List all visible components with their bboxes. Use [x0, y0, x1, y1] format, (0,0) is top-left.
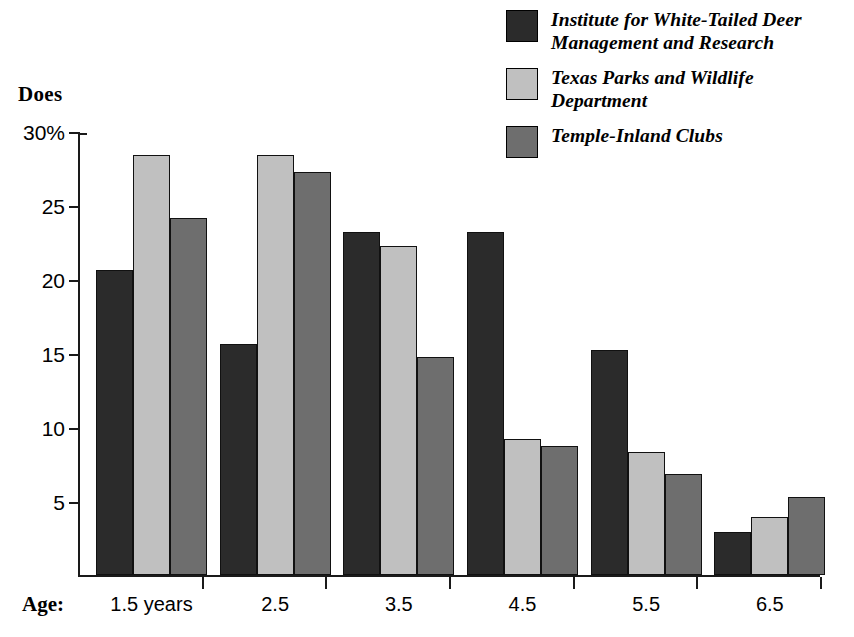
x-axis-category-label: 6.5: [756, 593, 784, 616]
y-axis-tick: [69, 206, 80, 208]
bar: [170, 218, 207, 575]
bar: [343, 232, 380, 575]
x-axis-tick: [325, 577, 327, 589]
bar: [714, 532, 751, 575]
y-axis-tick: [69, 354, 80, 356]
legend-swatch-tpwd: [506, 68, 538, 100]
bar: [96, 270, 133, 575]
legend-item-label: Institute for White-Tailed Deer Manageme…: [551, 8, 851, 54]
bar: [541, 446, 578, 575]
bar: [417, 357, 454, 575]
x-axis-tick: [202, 577, 204, 589]
y-axis-title: Does: [18, 82, 62, 107]
x-axis-labels: Age: 1.5 years2.53.54.55.56.5: [0, 592, 854, 626]
y-axis-tick-label: 20: [42, 269, 65, 293]
y-axis-tick: [69, 132, 80, 134]
y-axis-tick-label: 30%: [23, 121, 65, 145]
x-axis-tick: [696, 577, 698, 589]
x-axis-prefix-label: Age:: [22, 592, 64, 617]
x-axis-category-label: 2.5: [261, 593, 289, 616]
x-axis-tick: [449, 577, 451, 589]
legend-item: Institute for White-Tailed Deer Manageme…: [506, 8, 851, 54]
y-axis-tick-label: 10: [42, 417, 65, 441]
legend-swatch-institute: [506, 10, 538, 42]
y-axis-tick: [69, 280, 80, 282]
x-axis-category-label: 1.5 years: [110, 593, 192, 616]
x-axis-category-label: 5.5: [632, 593, 660, 616]
x-axis-tick: [573, 577, 575, 589]
bar: [380, 246, 417, 575]
bar: [467, 232, 504, 575]
bar: [665, 474, 702, 575]
y-axis-tick-label: 25: [42, 195, 65, 219]
y-axis-tick: [69, 502, 80, 504]
plot-area: 30%252015105: [78, 133, 820, 577]
bar: [504, 439, 541, 575]
bar: [591, 350, 628, 575]
x-axis-category-label: 3.5: [385, 593, 413, 616]
x-axis-category-label: 4.5: [509, 593, 537, 616]
bar: [257, 155, 294, 575]
legend-item: Texas Parks and Wildlife Department: [506, 66, 851, 112]
legend-item-label: Texas Parks and Wildlife Department: [551, 66, 851, 112]
bar: [133, 155, 170, 575]
bar: [628, 452, 665, 575]
bar: [294, 172, 331, 575]
x-axis-tick: [820, 577, 822, 589]
bar: [788, 497, 825, 575]
bar: [220, 344, 257, 575]
y-axis-tick-label: 15: [42, 343, 65, 367]
bar: [751, 517, 788, 575]
y-axis-tick: [69, 428, 80, 430]
y-axis-tick-label: 5: [53, 491, 65, 515]
